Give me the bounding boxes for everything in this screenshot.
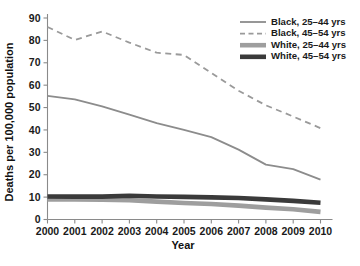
x-tick-label: 2008 <box>254 225 278 237</box>
x-tick-label: 2003 <box>118 225 142 237</box>
y-tick-label: 80 <box>29 34 41 46</box>
y-tick-label: 10 <box>29 191 41 203</box>
x-tick-label: 2000 <box>36 225 60 237</box>
x-tick-label: 2010 <box>309 225 333 237</box>
legend-label: Black, 45–54 yrs <box>271 27 346 38</box>
legend-label: Black, 25–44 yrs <box>271 16 346 27</box>
y-tick-label: 20 <box>29 168 41 180</box>
y-tick-label: 50 <box>29 101 41 113</box>
legend-label: White, 25–44 yrs <box>271 39 346 50</box>
chart-figure: 0102030405060708090 20002001200220032004… <box>0 0 360 266</box>
x-tick-label: 2001 <box>63 225 87 237</box>
line-chart: 0102030405060708090 20002001200220032004… <box>0 0 360 266</box>
legend-label: White, 45–54 yrs <box>271 50 346 61</box>
y-tick-label: 90 <box>29 12 41 24</box>
y-axis-title: Deaths per 100,000 population <box>3 42 15 201</box>
y-tick-label: 60 <box>29 79 41 91</box>
y-tick-label: 70 <box>29 56 41 68</box>
x-tick-label: 2009 <box>282 225 306 237</box>
x-tick-label: 2005 <box>172 225 196 237</box>
y-tick-label: 30 <box>29 146 41 158</box>
y-tick-label: 40 <box>29 124 41 136</box>
x-tick-label: 2004 <box>145 225 169 237</box>
x-axis-title: Year <box>171 239 195 251</box>
y-tick-label: 0 <box>35 213 41 225</box>
x-tick-label: 2007 <box>227 225 251 237</box>
x-tick-label: 2006 <box>200 225 224 237</box>
x-tick-label: 2002 <box>90 225 114 237</box>
